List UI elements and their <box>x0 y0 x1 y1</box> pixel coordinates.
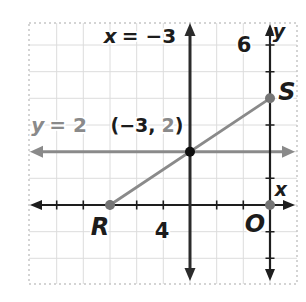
intersection-coordinate-close-paren: ) <box>175 114 184 136</box>
y-axis-tick-label-6: 6 <box>237 33 252 57</box>
intersection-coordinate-x-part: (−3, <box>111 114 156 136</box>
intersection-coordinate-y-part: 2 <box>162 114 175 136</box>
horizontal-line-equation-label: y= 2 <box>31 113 87 137</box>
point-R-dot <box>105 200 115 210</box>
x-axis-letter-label: x <box>274 178 288 200</box>
horizontal-line-equation-value: = 2 <box>49 113 87 137</box>
vertical-line-equation-variable: x <box>103 24 118 48</box>
point-S-dot <box>265 93 275 103</box>
intersection-coordinate-label: (−3,2) <box>111 114 184 136</box>
point-O-dot <box>265 200 275 210</box>
vertical-line-equation-label: x= −3 <box>103 24 176 48</box>
coordinate-grid-figure: x= −3 y= 2 (−3,2) 6 4 R O S x y <box>0 0 306 302</box>
point-R-label: R <box>91 213 109 241</box>
origin-label: O <box>245 210 265 238</box>
point-S-label: S <box>278 78 295 106</box>
x-axis-tick-label-4: 4 <box>155 219 170 243</box>
coordinate-plane: x= −3 y= 2 (−3,2) 6 4 R O S x y <box>0 0 306 302</box>
point-neg3-2-dot <box>185 147 195 157</box>
vertical-line-equation-value: = −3 <box>122 24 176 48</box>
y-axis-letter-label: y <box>273 20 287 42</box>
horizontal-line-equation-variable: y <box>31 113 45 137</box>
